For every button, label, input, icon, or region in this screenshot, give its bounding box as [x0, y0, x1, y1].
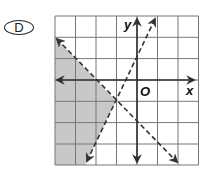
coordinate-graph: y x O	[0, 0, 205, 180]
y-axis-label: y	[123, 17, 132, 32]
x-axis-label: x	[185, 83, 194, 98]
origin-label: O	[140, 84, 150, 99]
